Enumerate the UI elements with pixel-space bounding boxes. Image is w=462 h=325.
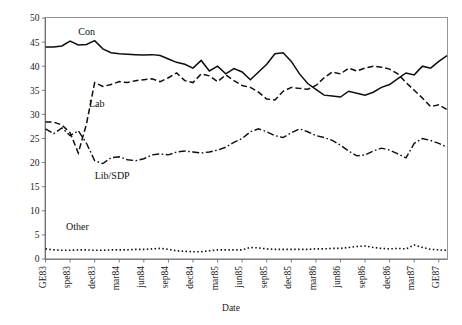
x-tick-label: mar84	[111, 266, 121, 291]
y-tick-label: 40	[30, 62, 40, 72]
x-axis-title: Date	[222, 303, 240, 313]
x-tick-label: GE83	[38, 266, 48, 288]
plot-border	[45, 18, 448, 260]
line-chart: 05101520253035404550 GE83spe83dec83mar84…	[0, 0, 462, 325]
x-tick-label: sep85	[259, 266, 269, 288]
series-label-con: Con	[78, 26, 95, 37]
x-tick-label: mar87	[406, 266, 416, 291]
series-line-lab	[46, 66, 448, 153]
y-axis-ticks: 05101520253035404550	[30, 13, 46, 264]
x-tick-label: jun84	[136, 266, 146, 289]
plot-frame	[45, 18, 448, 260]
x-tick-label: jun86	[332, 266, 342, 289]
y-tick-label: 25	[30, 134, 40, 144]
x-tick-label: dec86	[382, 266, 392, 289]
x-tick-label: dec83	[87, 266, 97, 289]
y-tick-label: 5	[35, 230, 40, 240]
series-label-lab: Lab	[89, 98, 105, 109]
series-line-other	[46, 245, 448, 252]
x-tick-label: mar85	[210, 266, 220, 291]
y-tick-label: 30	[30, 110, 40, 120]
x-tick-label: sep84	[160, 266, 170, 288]
x-tick-label: mar86	[308, 266, 318, 291]
x-tick-label: spe83	[62, 266, 72, 288]
x-tick-label: sep86	[357, 266, 367, 288]
chart-figure: 05101520253035404550 GE83spe83dec83mar84…	[0, 0, 462, 325]
x-tick-label: dec84	[185, 266, 195, 289]
data-series-group	[46, 41, 448, 252]
y-tick-label: 50	[30, 13, 40, 23]
x-tick-label: dec85	[283, 266, 293, 289]
y-tick-label: 15	[30, 182, 40, 192]
y-tick-label: 20	[30, 158, 40, 168]
series-label-other: Other	[66, 221, 89, 232]
series-line-lib-sdp	[46, 128, 448, 164]
series-labels-group: ConLabLib/SDPOther	[66, 26, 130, 232]
y-tick-label: 45	[30, 38, 40, 48]
y-tick-label: 35	[30, 86, 40, 96]
x-tick-label: GE87	[431, 266, 441, 288]
x-tick-label: jun85	[234, 266, 244, 289]
x-axis-ticks: GE83spe83dec83mar84jun84sep84dec84mar85j…	[38, 259, 441, 290]
series-label-lib-sdp: Lib/SDP	[95, 170, 130, 181]
y-tick-label: 10	[30, 206, 40, 216]
y-tick-label: 0	[35, 254, 40, 264]
